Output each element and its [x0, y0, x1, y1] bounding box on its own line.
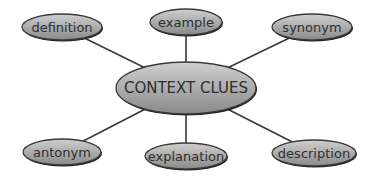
node-description-label: description: [278, 146, 350, 161]
node-description: description: [272, 140, 357, 168]
node-example: example: [150, 9, 223, 37]
node-definition: definition: [22, 14, 103, 42]
node-explanation: explanation: [145, 143, 228, 171]
node-antonym-label: antonym: [33, 145, 91, 160]
center-node: CONTEXT CLUES: [116, 62, 257, 116]
node-synonym-label: synonym: [282, 20, 341, 35]
concept-map-svg: definitionexamplesynonymantonymexplanati…: [0, 0, 372, 180]
node-antonym: antonym: [23, 139, 102, 167]
center-node-label: CONTEXT CLUES: [124, 79, 248, 97]
node-definition-label: definition: [31, 20, 92, 35]
node-explanation-label: explanation: [148, 149, 224, 164]
node-synonym: synonym: [272, 14, 353, 42]
concept-map: definitionexamplesynonymantonymexplanati…: [0, 0, 372, 180]
node-example-label: example: [158, 15, 214, 30]
